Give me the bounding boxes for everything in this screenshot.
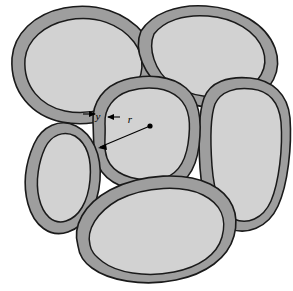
shell-thickness-label: y: [95, 110, 101, 122]
grain-diagram-canvas: y r: [0, 0, 293, 291]
grain-structure-figure: y r: [0, 0, 293, 291]
grain-center-dot: [147, 123, 152, 128]
grain-center: [93, 76, 200, 191]
grain-center-core: [105, 88, 190, 180]
core-radius-label: r: [128, 113, 133, 125]
